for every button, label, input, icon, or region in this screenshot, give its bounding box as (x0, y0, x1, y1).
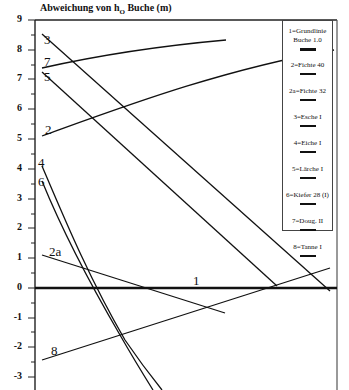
legend-swatch (300, 73, 316, 75)
y-tick-label: 9 (2, 13, 22, 24)
legend-item-5: 5=Lärche I (283, 165, 332, 191)
line-label-3: 3 (44, 32, 51, 47)
line-label-4: 4 (38, 155, 45, 170)
series-4-eiche (42, 166, 162, 390)
legend-swatch (300, 229, 316, 231)
y-tick-label: 4 (2, 162, 22, 173)
chart-legend: 1=Grundlinie Buche 1.0 2=Fichte 40 2a=Fi… (282, 20, 333, 231)
legend-swatch (300, 177, 316, 179)
legend-item-8: 8=Tanne I (283, 243, 332, 269)
y-tick-label: 2 (2, 221, 22, 232)
y-tick-label: 5 (2, 132, 22, 143)
line-label-1: 1 (193, 273, 200, 288)
legend-item-6: 6=Kiefer 28 (I) (283, 191, 332, 217)
legend-swatch (300, 125, 316, 127)
legend-item-1: 1=Grundlinie Buche 1.0 (283, 27, 332, 61)
line-label-5: 5 (44, 69, 51, 84)
legend-swatch (300, 99, 316, 101)
y-tick-label: 1 (2, 251, 22, 262)
y-tick-label: -1 (2, 311, 22, 322)
line-label-6: 6 (38, 174, 45, 189)
legend-swatch (300, 151, 316, 153)
series-5-laerche (42, 72, 277, 286)
legend-swatch (300, 203, 316, 205)
line-label-7: 7 (44, 54, 51, 69)
line-label-8: 8 (51, 343, 58, 358)
legend-item-4: 4=Eiche I (283, 139, 332, 165)
legend-item-3: 3=Esche I (283, 113, 332, 139)
y-axis-major-ticks (28, 20, 35, 377)
legend-swatch (300, 48, 316, 51)
y-tick-label: 0 (2, 281, 22, 292)
y-tick-label: 7 (2, 72, 22, 83)
y-tick-label: 8 (2, 43, 22, 54)
legend-item-2: 2=Fichte 40 (283, 61, 332, 87)
y-tick-label: -2 (2, 340, 22, 351)
line-label-2a: 2a (49, 244, 62, 259)
y-tick-label: 6 (2, 102, 22, 113)
legend-item-7: 7=Doug. II (283, 217, 332, 243)
line-label-2: 2 (45, 122, 52, 137)
legend-item-2a: 2a=Fichte 32 (283, 87, 332, 113)
series-8-tanne (42, 268, 330, 360)
series-7-douglasie (42, 40, 226, 68)
y-tick-label: 3 (2, 192, 22, 203)
legend-swatch (300, 255, 316, 257)
y-tick-label: -3 (2, 370, 22, 381)
